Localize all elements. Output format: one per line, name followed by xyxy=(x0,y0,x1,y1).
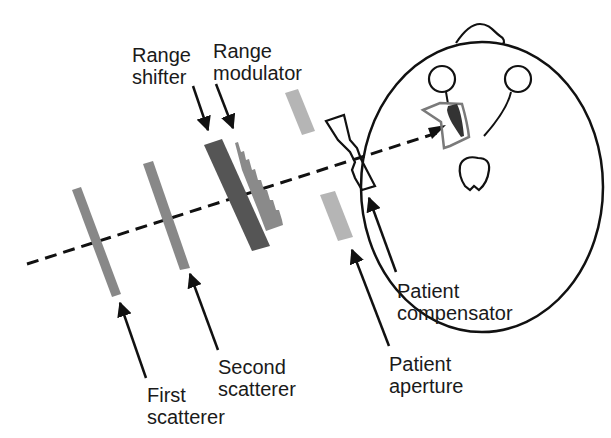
label-second-scatterer: Second scatterer xyxy=(218,356,296,400)
left-eye xyxy=(429,66,455,92)
aperture-upper-block xyxy=(285,89,315,135)
aperture-lower-block xyxy=(320,191,353,241)
patient-compensator-arrow xyxy=(369,198,396,272)
label-patient-compensator: Patient compensator xyxy=(397,280,513,324)
label-first-scatterer: First scatterer xyxy=(147,384,225,428)
first-scatterer xyxy=(72,187,121,297)
right-eye xyxy=(505,66,531,92)
label-range-shifter: Range shifter xyxy=(132,44,191,88)
second-scatterer-arrow xyxy=(190,274,218,350)
right-optic-nerve xyxy=(484,92,511,136)
range-modulator-arrow xyxy=(216,84,233,128)
label-range-modulator: Range modulator xyxy=(213,40,302,84)
label-patient-aperture: Patient aperture xyxy=(389,353,464,397)
patient-compensator xyxy=(326,115,375,190)
target-core xyxy=(447,104,464,137)
patient-aperture-arrow xyxy=(352,250,389,346)
first-scatterer-arrow xyxy=(120,303,146,378)
brainstem xyxy=(460,157,489,190)
range-shifter-arrow xyxy=(193,86,208,130)
diagram-canvas: Range shifter Range modulator First scat… xyxy=(0,0,611,438)
diagram-graphics xyxy=(0,0,611,438)
